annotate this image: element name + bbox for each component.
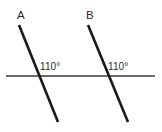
transversal-line-b [88, 25, 128, 122]
angle-label-a: 110° [40, 62, 60, 72]
transversal-line-a [19, 25, 58, 122]
geometry-figure: A B 110° 110° [0, 0, 162, 132]
line-label-b: B [86, 10, 94, 22]
line-label-a: A [17, 10, 25, 22]
angle-label-b: 110° [108, 62, 128, 72]
